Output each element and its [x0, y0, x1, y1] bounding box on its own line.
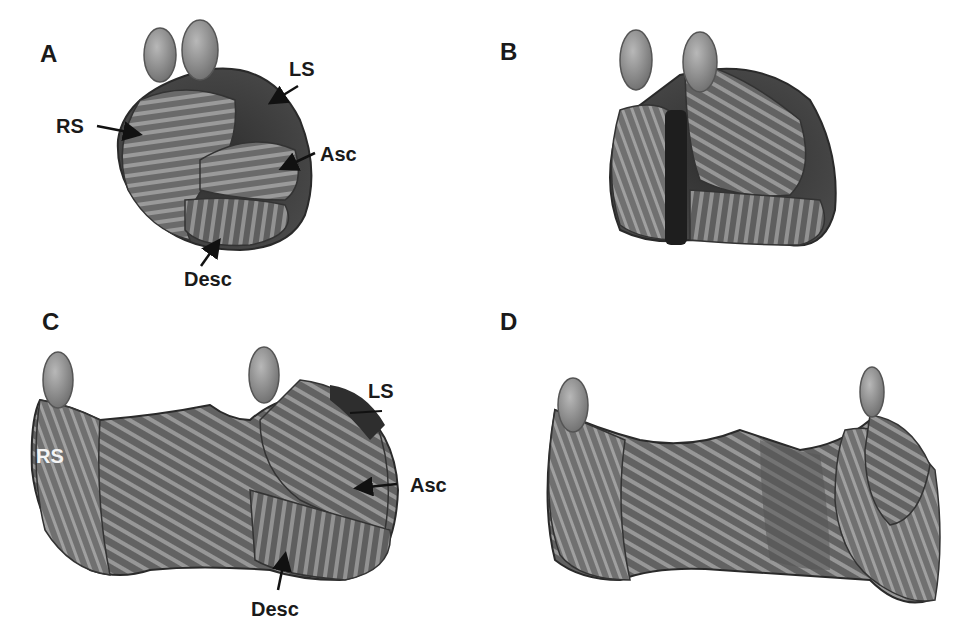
- panel-label-c: C: [42, 308, 59, 336]
- label-ls-a: LS: [289, 58, 315, 81]
- panel-c-band: [32, 347, 398, 580]
- panel-a-heart: [118, 20, 312, 250]
- panel-d-band: [548, 367, 941, 603]
- label-asc-a: Asc: [320, 143, 357, 166]
- label-rs-c: RS: [36, 445, 64, 468]
- label-asc-c: Asc: [410, 474, 447, 497]
- label-rs-a: RS: [56, 115, 84, 138]
- panel-label-b: B: [500, 38, 517, 66]
- label-desc-a: Desc: [184, 268, 232, 291]
- label-desc-c: Desc: [251, 598, 299, 621]
- panel-label-d: D: [500, 308, 517, 336]
- panel-label-a: A: [40, 40, 57, 68]
- label-ls-c: LS: [368, 380, 394, 403]
- panel-b-heart: [610, 30, 836, 246]
- figure-canvas: [0, 0, 965, 636]
